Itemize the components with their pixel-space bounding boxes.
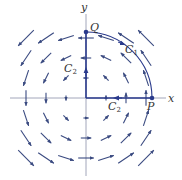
field-vector-arrow-icon [61,55,71,60]
field-vector-arrow-icon [138,30,154,46]
field-vector-arrow-icon [141,130,151,146]
field-vector-arrow-icon [123,113,128,123]
curve-c1 [86,32,152,98]
c1-label: C1 [125,43,138,57]
field-vector-arrow-icon [41,133,51,143]
point-q-label: Q [90,21,99,34]
field-vector-arrow-icon [63,115,68,120]
field-vector-arrow-icon [43,73,48,83]
c2-label-vertical: C2 [64,62,77,76]
field-vector-arrow-icon [38,33,54,43]
point-p-label: P [146,100,155,113]
field-vector-arrow-icon [18,30,34,46]
field-vector-arrow-icon [101,135,111,140]
field-vector-arrow-icon [103,115,108,120]
field-vector-arrow-icon [61,135,71,140]
field-vector-arrow-icon [23,70,28,86]
field-vector-arrow-icon [123,73,128,83]
point-q [84,30,89,35]
field-vector-arrow-icon [138,150,154,166]
vector-field-diagram: x y P Q C1 C2 C2 [0,0,182,180]
field-vector-arrow-icon [101,55,111,60]
x-axis-label: x [168,92,175,105]
diagram-canvas: x y P Q C1 C2 C2 [0,0,182,180]
field-vector-arrow-icon [21,130,31,146]
field-vector-arrow-icon [143,70,148,86]
field-vector-arrow-icon [23,110,28,126]
y-axis-label: y [80,1,88,14]
field-vector-arrow-icon [58,155,74,160]
field-vector-arrow-icon [118,153,134,163]
field-vector-arrow-icon [18,150,34,166]
c2-label-horizontal: C2 [108,100,121,114]
field-vector-arrow-icon [38,153,54,163]
field-vector-arrow-icon [63,75,68,80]
field-vector-arrow-icon [98,35,114,40]
field-vector-arrow-icon [121,133,131,143]
field-vector-arrow-icon [98,155,114,160]
field-vector-arrow-icon [41,53,51,63]
field-vector-arrow-icon [43,113,48,123]
field-vector-arrow-icon [103,75,108,80]
field-vector-arrow-icon [21,50,31,66]
field-vector-arrow-icon [58,35,74,40]
